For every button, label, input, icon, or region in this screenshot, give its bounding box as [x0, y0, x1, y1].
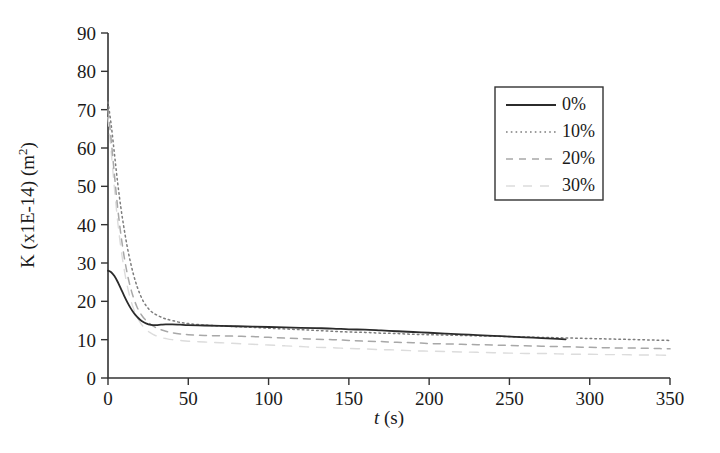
legend-label-20pct: 20%: [562, 148, 595, 168]
y-tick-label: 20: [77, 291, 96, 312]
y-tick-label: 70: [77, 100, 96, 121]
y-axis-title: K (x1E-14) (m2): [15, 142, 40, 268]
x-axis-title: t (s): [374, 407, 404, 429]
legend-label-30pct: 30%: [562, 175, 595, 195]
y-tick-label: 50: [77, 176, 96, 197]
x-tick-label: 200: [415, 388, 444, 409]
y-tick-label: 10: [77, 330, 96, 351]
y-tick-label: 80: [77, 61, 96, 82]
y-tick-label: 0: [87, 368, 97, 389]
series-line-0pct: [108, 271, 566, 340]
y-tick-label: 30: [77, 253, 96, 274]
axis-lines: [108, 33, 670, 378]
x-tick-label: 50: [179, 388, 198, 409]
x-tick-label: 100: [254, 388, 283, 409]
x-tick-label: 250: [495, 388, 524, 409]
y-tick-label: 90: [77, 23, 96, 44]
x-tick-label: 0: [103, 388, 113, 409]
legend-label-10pct: 10%: [562, 121, 595, 141]
chart-legend: 0%10%20%30%: [495, 87, 603, 200]
x-tick-label: 300: [575, 388, 604, 409]
x-tick-label: 150: [335, 388, 364, 409]
line-chart: 0102030405060708090 05010015020025030035…: [0, 0, 720, 453]
x-axis-ticks: 050100150200250300350: [103, 378, 684, 409]
x-tick-label: 350: [656, 388, 685, 409]
y-tick-label: 40: [77, 215, 96, 236]
chart-figure: 0102030405060708090 05010015020025030035…: [0, 0, 720, 453]
y-tick-label: 60: [77, 138, 96, 159]
legend-label-0pct: 0%: [562, 94, 586, 114]
y-axis-ticks: 0102030405060708090: [77, 23, 108, 389]
